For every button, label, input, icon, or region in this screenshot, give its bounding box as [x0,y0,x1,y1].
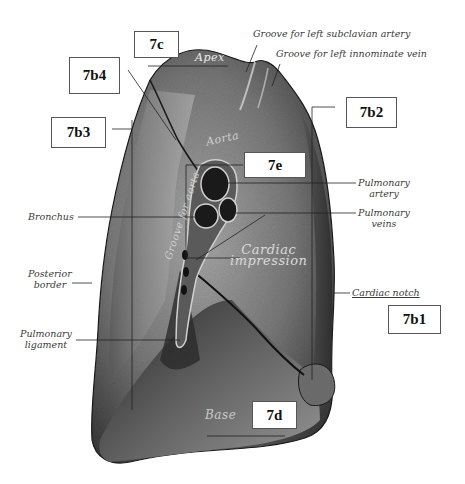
box-7b2: 7b2 [346,97,397,128]
label-bronchus: Bronchus [28,211,74,222]
box-7c: 7c [134,31,179,58]
box-7b1: 7b1 [388,305,441,334]
lung-diagram: Groove for left subclavian artery Groove… [0,0,465,484]
label-pulmonary-artery: Pulmonary artery [358,177,410,199]
label-cardiac-notch: Cardiac notch [352,287,420,298]
box-7b4: 7b4 [69,57,120,94]
label-groove-subclavian-artery: Groove for left subclavian artery [253,28,410,39]
label-apex: Apex [195,52,225,63]
label-groove-innominate-vein: Groove for left innominate vein [276,48,427,59]
label-pulmonary-ligament: Pulmonary ligament [20,328,72,350]
label-cardiac-impression: Cardiac impression [230,244,307,266]
box-7b3: 7b3 [51,117,106,148]
label-posterior-border: Posterior border [28,268,72,290]
box-7e: 7e [244,152,306,178]
label-pulmonary-veins: Pulmonary veins [358,207,410,229]
box-7d: 7d [252,401,297,429]
label-base: Base [205,410,236,421]
